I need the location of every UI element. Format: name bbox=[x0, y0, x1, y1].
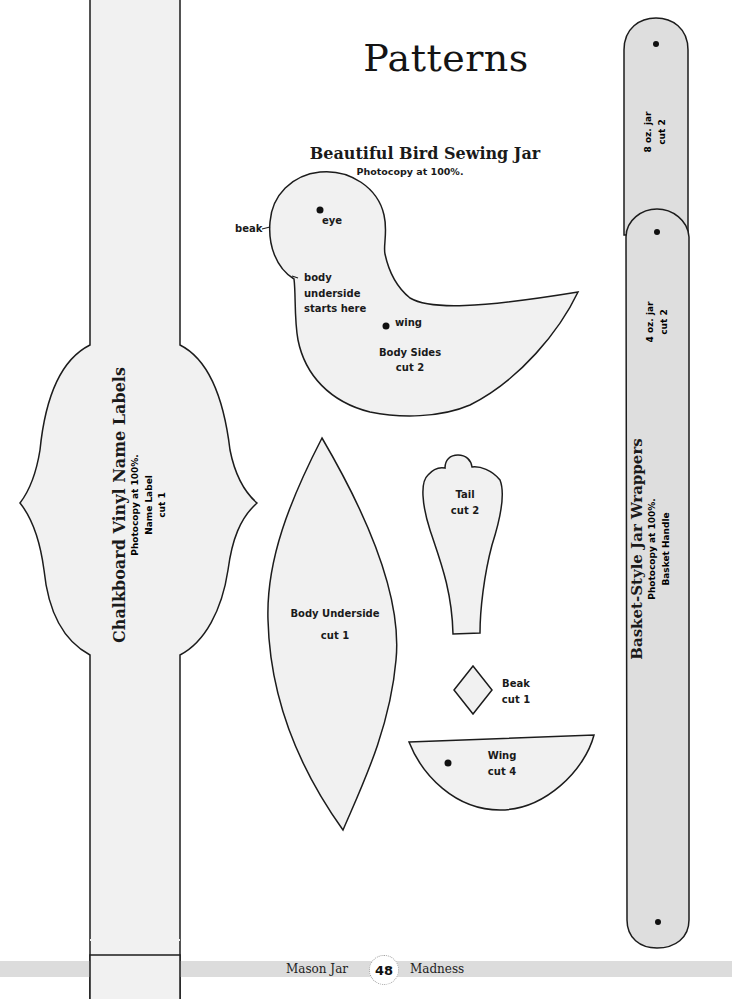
cut-count: cut 2 bbox=[440, 503, 490, 519]
piece-name: Beak bbox=[496, 676, 536, 692]
body-underside-annotation: body underside starts here bbox=[304, 270, 366, 317]
annotation-line: underside bbox=[304, 286, 366, 302]
tail-shape bbox=[423, 455, 503, 634]
basket-label-block: Basket-Style Jar Wrappers Photocopy at 1… bbox=[628, 429, 686, 669]
basket-instruction: Photocopy at 100%. bbox=[646, 429, 660, 669]
cut-count: cut 2 bbox=[360, 360, 460, 375]
piece-name: Body Underside bbox=[280, 603, 390, 625]
chalkboard-heading: Chalkboard Vinyl Name Labels bbox=[110, 325, 129, 685]
bird-heading: Beautiful Bird Sewing Jar bbox=[290, 144, 560, 163]
page-title: Patterns bbox=[80, 36, 732, 80]
strip-4oz-label: 4 oz. jar cut 2 bbox=[644, 292, 672, 352]
footer-band bbox=[0, 961, 732, 977]
basket-piece-name: Basket Handle bbox=[660, 429, 674, 669]
bird-instruction: Photocopy at 100%. bbox=[340, 165, 480, 179]
piece-name: Tail bbox=[440, 487, 490, 503]
strip-name: 4 oz. jar bbox=[644, 292, 658, 352]
annotation-line: body bbox=[304, 270, 366, 286]
hole-dot-icon bbox=[655, 919, 661, 925]
piece-name: Wing bbox=[480, 748, 524, 764]
tail-label: Tail cut 2 bbox=[440, 487, 490, 519]
cut-count: cut 1 bbox=[280, 625, 390, 647]
beak-annotation: beak bbox=[235, 221, 262, 237]
strip-8oz-label: 8 oz. jar cut 2 bbox=[642, 102, 670, 162]
strip-cut: cut 2 bbox=[658, 292, 672, 352]
page-number: 48 bbox=[369, 955, 399, 985]
annotation-line: starts here bbox=[304, 301, 366, 317]
wing-dot-icon bbox=[383, 323, 390, 330]
wing-label: Wing cut 4 bbox=[480, 748, 524, 780]
body-sides-label: Body Sides cut 2 bbox=[360, 345, 460, 375]
chalkboard-instruction: Photocopy at 100%. bbox=[129, 325, 143, 685]
cut-count: cut 4 bbox=[480, 764, 524, 780]
body-underside-label: Body Underside cut 1 bbox=[280, 603, 390, 647]
hole-dot-icon bbox=[654, 229, 660, 235]
beak-marker-tick bbox=[262, 227, 270, 229]
beak-label: Beak cut 1 bbox=[496, 676, 536, 708]
strip-name: 8 oz. jar bbox=[642, 102, 656, 162]
cut-count: cut 1 bbox=[496, 692, 536, 708]
wing-annotation: wing bbox=[395, 315, 422, 331]
beak-shape bbox=[454, 666, 492, 714]
footer-book-title-left: Mason Jar bbox=[286, 962, 348, 976]
eye-annotation: eye bbox=[322, 213, 342, 229]
basket-heading: Basket-Style Jar Wrappers bbox=[628, 429, 646, 669]
chalkboard-label-block: Chalkboard Vinyl Name Labels Photocopy a… bbox=[110, 325, 180, 685]
footer-book-title-right: Madness bbox=[410, 962, 464, 976]
piece-name: Body Sides bbox=[360, 345, 460, 360]
chalkboard-cut-count: cut 1 bbox=[156, 325, 170, 685]
wing-dot-icon bbox=[445, 760, 452, 767]
strip-cut: cut 2 bbox=[656, 102, 670, 162]
chalkboard-piece-name: Name Label bbox=[143, 325, 157, 685]
